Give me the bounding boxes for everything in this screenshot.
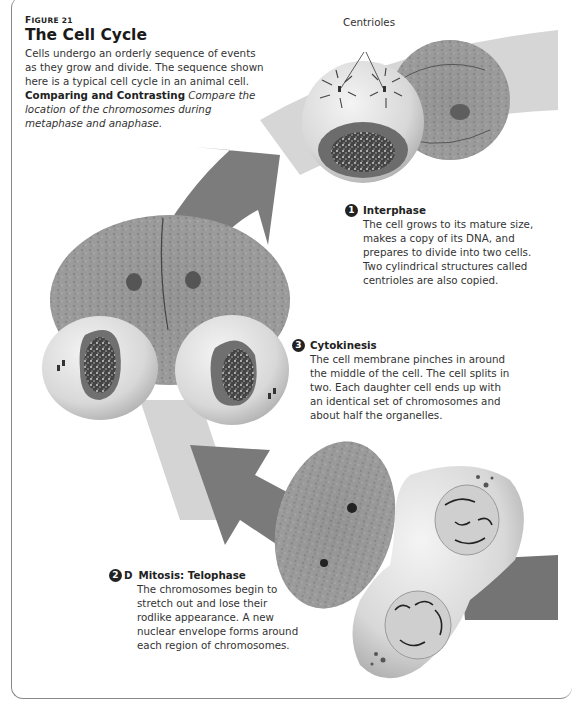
step-number-badge: 1 xyxy=(345,204,358,217)
figure-caption: FIGURE 21 The Cell Cycle Cells undergo a… xyxy=(25,15,265,130)
skill-label: Comparing and Contrasting xyxy=(25,89,185,101)
centrioles-label: Centrioles xyxy=(343,16,395,28)
figure-title: The Cell Cycle xyxy=(25,26,265,44)
step-title: Cytokinesis xyxy=(310,338,377,352)
step-number-badge: 3 xyxy=(292,339,305,352)
figure-intro: Cells undergo an orderly sequence of eve… xyxy=(25,46,265,130)
step-cytokinesis: 3Cytokinesis The cell membrane pinches i… xyxy=(292,338,509,422)
step-number-badge: 2 xyxy=(109,569,122,582)
step-title: Mitosis: Telophase xyxy=(139,568,246,582)
step-interphase: 1Interphase The cell grows to its mature… xyxy=(345,203,533,287)
step-telophase: 2DMitosis: Telophase The chromosomes beg… xyxy=(109,568,298,652)
figure-number: FIGURE 21 xyxy=(25,15,265,25)
step-title: Interphase xyxy=(363,203,426,217)
